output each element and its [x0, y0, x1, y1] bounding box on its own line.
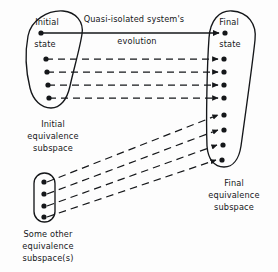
other-subspace-label-line3: subspace(s) — [23, 253, 74, 263]
final-node-3 — [221, 69, 226, 74]
final-node-5 — [221, 95, 226, 100]
initial-subspace-label-line2: equivalence — [27, 131, 78, 141]
other-node-4 — [41, 214, 46, 219]
final-subspace-label-line1: Final — [224, 178, 244, 188]
evolution-diagram: Initial state Final state Quasi-isolated… — [0, 0, 278, 272]
figure-root: Initial state Final state Quasi-isolated… — [0, 0, 278, 272]
other-node-2 — [41, 191, 46, 196]
final-state-label-line2: state — [219, 39, 241, 49]
final-state-node — [222, 30, 227, 35]
final-state-label-line1: Final — [219, 17, 239, 27]
other-subspace-label-line1: Some other — [23, 229, 73, 239]
final-subspace-label-line3: subspace — [214, 202, 254, 212]
initial-subspace-label-line3: subspace — [33, 143, 73, 153]
other-node-1 — [41, 179, 46, 184]
final-node-8 — [220, 142, 225, 147]
final-node-7 — [221, 127, 226, 132]
final-equivalence-subspace-outline — [207, 11, 256, 167]
dashed-arrow-diag-4 — [47, 160, 216, 217]
initial-state-label-line2: state — [34, 39, 56, 49]
final-subspace-label-line2: equivalence — [208, 190, 259, 200]
other-subspace-label-line2: equivalence — [22, 241, 73, 251]
initial-subspace-label-line1: Initial — [41, 119, 65, 129]
final-node-6 — [221, 112, 226, 117]
evolution-label-line1: Quasi-isolated system's — [84, 14, 185, 24]
dashed-arrow-diag-3 — [47, 145, 217, 206]
other-node-3 — [41, 203, 46, 208]
initial-state-label-line1: Initial — [35, 17, 59, 27]
evolution-label-line2: evolution — [117, 36, 156, 46]
final-node-4 — [221, 82, 226, 87]
final-node-2 — [221, 56, 226, 61]
final-node-9 — [219, 157, 224, 162]
